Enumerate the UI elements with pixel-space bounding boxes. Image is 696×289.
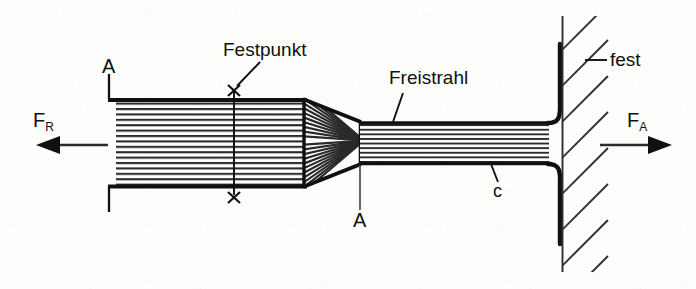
fixed-wall <box>560 12 608 286</box>
section-label-a-top: A <box>102 56 115 76</box>
section-label-a-bottom: A <box>353 210 366 230</box>
figure-canvas: Festpunkt Freistrahl fest A A c FR FA <box>0 0 696 289</box>
jet-velocity-label: c <box>493 182 502 200</box>
reaction-force-subscript: R <box>45 120 54 134</box>
freistrahl-leader <box>393 93 403 122</box>
reaction-force-symbol: F <box>33 109 45 131</box>
jet-deflector-plate <box>548 44 560 244</box>
impact-force-arrow <box>600 136 672 154</box>
impact-force-label: FA <box>627 110 647 130</box>
reaction-force-label: FR <box>33 110 54 130</box>
impact-force-subscript: A <box>639 120 647 134</box>
diagram-svg <box>0 0 696 289</box>
convergent-nozzle <box>300 86 364 195</box>
festpunkt-label: Festpunkt <box>223 40 306 59</box>
festpunkt-leader <box>237 62 260 86</box>
free-jet <box>358 120 552 166</box>
pressure-chamber <box>108 99 310 189</box>
impact-force-symbol: F <box>627 109 639 131</box>
wall-hatching <box>560 12 608 286</box>
jet-velocity-leader <box>491 164 498 182</box>
reaction-force-arrow <box>36 136 108 154</box>
fest-label: fest <box>610 50 641 69</box>
freistrahl-label: Freistrahl <box>389 68 468 87</box>
